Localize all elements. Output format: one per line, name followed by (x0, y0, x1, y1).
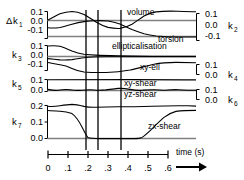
panel-4-left-tick-0: 0.2 (30, 101, 43, 111)
x-tick-label-3: .3 (104, 163, 112, 173)
panel-4-label-zx-shear: zx-shear (148, 121, 181, 131)
panel-1-right-tick-2: -0.1 (205, 31, 221, 41)
panel-3-right-symbol-sub: 6 (234, 100, 238, 107)
panel-3-left-tick-0: 0.1 (30, 75, 43, 85)
panel-3-left-axis (45, 80, 48, 92)
panel-3-label-xy-shear: xy-shear (124, 78, 157, 88)
panel-2-symbol-k: k (12, 49, 17, 60)
multi-panel-timeseries-chart: 0.1 0.0 -0.1 Δ k 1 volume torsion 0.1 0.… (0, 0, 244, 180)
panel-2-left-tick-2: -0.1 (27, 59, 43, 69)
panel-1-label-volume: volume (127, 7, 155, 17)
panel-4-series-k7-upper (48, 104, 196, 107)
panel-3-label-yz-shear: yz-shear (124, 89, 157, 99)
panel-3-symbol-sub: 5 (18, 84, 22, 91)
panel-3-right-symbol-k: k (228, 94, 233, 105)
x-tick-label-1: .1 (64, 163, 72, 173)
panel-1-right-tick-0: 0.1 (205, 9, 218, 19)
panel-2-right-symbol: k 4 (228, 69, 238, 82)
x-axis-title: time (s) (176, 147, 205, 157)
x-tick-label-6: .6 (164, 163, 172, 173)
panel-2-right-tick-1: 0.0 (205, 70, 218, 80)
panel-2-series-xy-ell (48, 62, 196, 72)
panel-4-axis-symbol: k 7 (12, 116, 22, 129)
panel-4-left-tick-2: 0.0 (30, 133, 43, 143)
panel-1-symbol-sub: 1 (19, 21, 23, 28)
x-tick-label-5: .5 (144, 163, 152, 173)
panel-4: 0.2 0.1 0.0 k 7 zx-shear (12, 101, 196, 143)
panel-1-right-tick-1: 0.0 (205, 20, 218, 30)
panel-2-right-symbol-sub: 4 (234, 75, 238, 82)
panel-1-axis-symbol: Δ k 1 (6, 15, 23, 28)
panel-2-label-xy-ell: xy-ell (140, 62, 160, 72)
panel-1-right-symbol-sub: 2 (234, 26, 238, 33)
panel-2: 0.1 0.0 -0.1 k 3 ellipticalisation xy-el… (12, 41, 238, 82)
panel-4-left-axis (45, 106, 48, 139)
panel-1-left-tick-2: -0.1 (27, 25, 43, 35)
panel-2-right-tick-0: 0.1 (205, 60, 218, 70)
panel-2-axis-symbol: k 3 (12, 49, 22, 62)
panel-3-right-tick-0: 0.1 (205, 85, 218, 95)
panel-2-right-axis (197, 65, 200, 75)
panel-3-axis-symbol: k 5 (12, 78, 22, 91)
figure-container: 0.1 0.0 -0.1 Δ k 1 volume torsion 0.1 0.… (0, 0, 244, 180)
panel-1-right-symbol: k 2 (228, 20, 238, 33)
panel-3-symbol-k: k (12, 78, 17, 89)
panel-1-right-symbol-k: k (228, 20, 233, 31)
x-tick-label-4: .4 (124, 163, 132, 173)
panel-4-left-tick-1: 0.1 (30, 117, 43, 127)
panel-2-symbol-sub: 3 (18, 55, 22, 62)
panel-3-right-tick-1: 0.0 (205, 95, 218, 105)
panel-2-right-symbol-k: k (228, 69, 233, 80)
panel-1-symbol-delta: Δ (6, 15, 13, 26)
x-tick-label-2: .2 (84, 163, 92, 173)
panel-3-right-symbol: k 6 (228, 94, 238, 107)
panel-1-left-axis (45, 12, 48, 39)
panel-4-symbol-sub: 7 (18, 122, 22, 129)
panel-2-left-axis (45, 46, 48, 71)
time-arrow-icon (176, 163, 207, 172)
panel-4-symbol-k: k (12, 116, 17, 127)
panel-1-right-axis (197, 14, 200, 41)
panel-2-label-ellipticalisation: ellipticalisation (112, 41, 167, 51)
x-axis: 0 .1 .2 .3 .4 .5 .6 time (s) (45, 147, 207, 173)
panel-3-right-axis (197, 90, 200, 100)
x-tick-label-0: 0 (45, 163, 50, 173)
panel-1-symbol-k: k (13, 15, 18, 26)
panel-1: 0.1 0.0 -0.1 Δ k 1 volume torsion 0.1 0.… (6, 7, 238, 45)
panel-3-left-tick-1: 0.0 (30, 85, 43, 95)
